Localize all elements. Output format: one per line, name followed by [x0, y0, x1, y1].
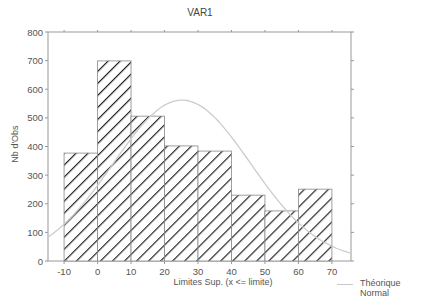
- y-axis-label: Nb d'Obs: [10, 114, 20, 174]
- legend-label: Théorique Normal: [360, 278, 430, 298]
- svg-text:800: 800: [27, 27, 43, 38]
- histogram-bar: [131, 116, 164, 261]
- legend: Théorique Normal: [334, 278, 434, 301]
- chart-title-text: VAR1: [187, 7, 212, 18]
- legend-label-line1: Théorique: [360, 278, 430, 288]
- svg-text:700: 700: [27, 55, 43, 66]
- svg-text:300: 300: [27, 170, 43, 181]
- svg-text:50: 50: [260, 266, 271, 277]
- svg-text:70: 70: [327, 266, 338, 277]
- svg-text:500: 500: [27, 112, 43, 123]
- svg-text:0: 0: [95, 266, 100, 277]
- histogram-bar: [198, 151, 231, 261]
- svg-text:20: 20: [159, 266, 170, 277]
- histogram-bar: [165, 146, 198, 261]
- svg-text:0: 0: [38, 256, 43, 267]
- histogram-chart: 0100200300400500600700800 -1001020304050…: [0, 0, 436, 301]
- svg-text:60: 60: [293, 266, 304, 277]
- x-axis-label: Limites Sup. (x <= limite): [143, 277, 303, 287]
- legend-label-line2: Normal: [360, 288, 430, 298]
- histogram-bar: [231, 195, 264, 261]
- svg-text:400: 400: [27, 141, 43, 152]
- svg-text:30: 30: [193, 266, 204, 277]
- svg-text:10: 10: [126, 266, 137, 277]
- svg-text:200: 200: [27, 198, 43, 209]
- legend-normal-line-icon: [337, 284, 353, 285]
- histogram-bar: [298, 189, 331, 261]
- svg-text:100: 100: [27, 227, 43, 238]
- svg-text:-10: -10: [57, 266, 71, 277]
- svg-text:600: 600: [27, 84, 43, 95]
- svg-text:40: 40: [226, 266, 237, 277]
- chart-title: VAR1: [0, 7, 436, 18]
